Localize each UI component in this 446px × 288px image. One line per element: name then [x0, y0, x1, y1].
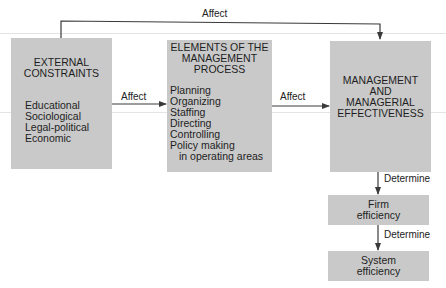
effectiveness-title-line: EFFECTIVENESS [330, 108, 431, 119]
firm-efficiency-text: Firm efficiency [328, 199, 429, 221]
external-affect-label: Affect [121, 91, 146, 102]
managerial-effectiveness-box: MANAGEMENT AND MANAGERIAL EFFECTIVENESS [330, 41, 431, 172]
system-efficiency-box: System efficiency [328, 251, 429, 281]
process-title-line: PROCESS [167, 64, 272, 75]
top-affect-label: Affect [202, 8, 227, 19]
management-process-box: ELEMENTS OF THE MANAGEMENT PROCESS Plann… [167, 40, 272, 172]
external-title-line: CONSTRAINTS [11, 68, 112, 79]
external-items: Educational Sociological Legal-political… [25, 100, 89, 144]
top-affect-arrow [61, 21, 380, 39]
external-title: EXTERNAL CONSTRAINTS [11, 57, 112, 79]
system-line: efficiency [328, 266, 429, 277]
system-efficiency-text: System efficiency [328, 255, 429, 277]
external-item-economic: Economic [25, 133, 89, 144]
process-item-operating-areas: in operating areas [170, 151, 263, 162]
process-items: Planning Organizing Staffing Directing C… [170, 85, 263, 162]
firm-efficiency-box: Firm efficiency [328, 195, 429, 225]
determine-label-1: Determine [384, 173, 430, 184]
firm-line: efficiency [328, 210, 429, 221]
external-constraints-box: EXTERNAL CONSTRAINTS Educational Sociolo… [11, 38, 112, 169]
process-title: ELEMENTS OF THE MANAGEMENT PROCESS [167, 42, 272, 75]
determine-label-2: Determine [384, 229, 430, 240]
effectiveness-title: MANAGEMENT AND MANAGERIAL EFFECTIVENESS [330, 75, 431, 119]
process-affect-label: Affect [280, 91, 305, 102]
